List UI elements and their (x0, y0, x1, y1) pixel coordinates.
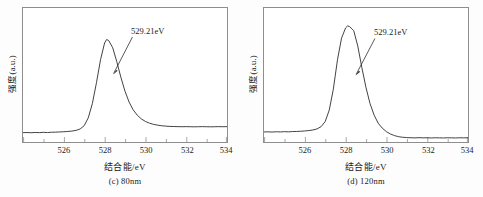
spectrum-curve-d (264, 26, 468, 138)
panel-d: 强度(a.u.) (241, 0, 482, 197)
y-axis-label-container-d: 强度(a.u.) (241, 30, 263, 110)
x-tick-528-d: 528 (340, 145, 353, 155)
peak-annotation-label-c: 529.21eV (131, 26, 164, 36)
x-axis-tick-labels-d: 526 528 530 532 534 (263, 145, 469, 157)
x-tick-526-d: 526 (298, 145, 311, 155)
x-tick-532-c: 532 (181, 145, 194, 155)
panel-caption-c: (c) 80nm (22, 176, 228, 186)
peak-annotation-label-d: 529.21eV (374, 27, 407, 37)
x-tick-534-d: 534 (461, 145, 474, 155)
x-tick-530-c: 530 (140, 145, 153, 155)
y-axis-label-c: 强度(a.u.) (5, 29, 17, 119)
x-axis-tick-labels-c: 526 528 530 532 534 (22, 145, 228, 157)
spectrum-curve-c (23, 40, 227, 133)
x-axis-label-c: 结合能/eV (22, 160, 228, 173)
plot-area-c: 529.21eV (22, 7, 228, 143)
panel-c: 强度(a.u.) (0, 0, 241, 197)
x-tick-532-d: 532 (422, 145, 435, 155)
annotation-arrow-c (113, 37, 132, 75)
spectrum-plot-d (264, 8, 468, 142)
plot-area-d: 529.21eV (263, 7, 469, 143)
y-axis-label-d: 强度(a.u.) (246, 29, 258, 119)
x-tick-528-c: 528 (99, 145, 112, 155)
y-axis-label-container-c: 强度(a.u.) (0, 30, 22, 110)
annotation-arrow-d (356, 39, 375, 76)
spectrum-plot-c (23, 8, 227, 142)
panel-caption-d: (d) 120nm (263, 176, 469, 186)
x-axis-label-d: 结合能/eV (263, 160, 469, 173)
x-tick-534-c: 534 (220, 145, 233, 155)
x-axis-ticks-c (24, 137, 227, 142)
figure-xps-spectra: 强度(a.u.) (0, 0, 483, 197)
x-tick-530-d: 530 (381, 145, 394, 155)
x-tick-526-c: 526 (57, 145, 70, 155)
